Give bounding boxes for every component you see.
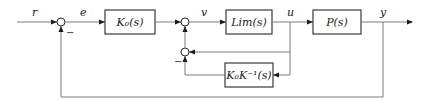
arrow-e-icon [99, 20, 105, 25]
arrow-r-icon [51, 20, 57, 25]
signal-label-y: y [379, 6, 387, 19]
signal-label-r: r [32, 6, 38, 19]
summing-junction-mid [181, 18, 189, 26]
summing-junction-outer [57, 18, 65, 26]
arrow-feedback-block-in-icon [273, 73, 279, 78]
signal-label-v: v [201, 6, 208, 19]
block-diagram: r − e K₀(s) v Lim(s) u P(s) y − K₀K⁻¹(s) [0, 0, 426, 100]
arrow-k0-out-icon [175, 20, 181, 25]
arrow-inner-sum-right-icon [189, 50, 195, 55]
arrow-inner-to-mid-icon [183, 26, 188, 32]
block-controller-label: K₀(s) [116, 16, 144, 29]
block-feedback-label: K₀K⁻¹(s) [225, 69, 271, 82]
block-limiter-label: Lim(s) [230, 16, 266, 29]
signal-label-e: e [80, 6, 87, 19]
block-plant-label: P(s) [325, 16, 348, 29]
minus-sign-inner: − [174, 56, 182, 67]
arrow-inner-sum-bottom-icon [183, 56, 188, 62]
arrow-u-icon [307, 20, 313, 25]
wire-u-branch [273, 22, 290, 75]
arrow-outer-feedback-icon [59, 26, 64, 32]
wire-feedback-block-out [185, 56, 225, 75]
arrow-y-icon [407, 20, 413, 25]
signal-label-u: u [287, 6, 294, 19]
arrow-v-icon [220, 20, 226, 25]
summing-junction-inner [181, 48, 189, 56]
minus-sign-outer: − [66, 27, 74, 38]
